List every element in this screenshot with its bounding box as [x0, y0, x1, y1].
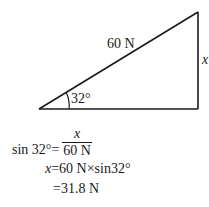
fraction-denominator: 60 N [62, 144, 92, 158]
equation-line2: x=60 N×sin32° [45, 162, 131, 176]
equation-line3: =31.8 N [53, 182, 99, 196]
equation-line1-fraction: x 60 N [62, 127, 92, 158]
angle-arc [66, 92, 69, 109]
hypotenuse-line [39, 12, 198, 109]
right-triangle [39, 12, 198, 109]
angle-label: 32° [71, 92, 91, 106]
equation-line1-lhs: sin 32°= [12, 143, 59, 157]
hypotenuse-label: 60 N [107, 37, 135, 51]
equation-line2-rhs: =60 N×sin32° [51, 161, 130, 176]
fraction-numerator: x [62, 127, 92, 141]
opposite-side-label: x [202, 53, 208, 67]
